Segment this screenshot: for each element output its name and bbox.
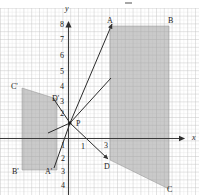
y-tick-neg-4: 4: [61, 182, 65, 190]
vertex-label-B: B: [168, 17, 173, 25]
vertex-label-C-prime: C': [11, 83, 18, 91]
y-tick-neg-1: 1: [61, 142, 65, 150]
figure-canvas: [0, 0, 199, 195]
y-axis-label: y: [65, 5, 69, 13]
vertex-label-D: D: [104, 163, 110, 171]
y-tick-neg-2: 2: [61, 155, 65, 163]
y-tick-2: 2: [60, 110, 64, 118]
x-axis-label: x: [192, 134, 196, 142]
x-tick-1: 1: [81, 143, 85, 151]
x-tick-3: 3: [104, 142, 108, 150]
point-P-marker: [68, 121, 71, 124]
y-tick-7: 7: [60, 36, 64, 44]
y-tick-5: 5: [60, 68, 64, 76]
quadrilateral-ABCD: [110, 26, 169, 189]
y-tick-6: 6: [60, 52, 64, 60]
y-tick-4: 4: [60, 83, 64, 91]
y-tick-neg-3: 3: [61, 168, 65, 176]
vertex-label-C: C: [167, 186, 172, 194]
vertex-label-B-prime: B': [12, 168, 19, 176]
point-label-P: P: [76, 120, 80, 128]
vertex-label-A: A: [107, 17, 113, 25]
y-tick-3: 3: [60, 98, 64, 106]
y-tick-8: 8: [60, 21, 64, 29]
vertex-label-D-prime: D': [52, 95, 59, 103]
coordinate-plane-figure: y x 8 7 6 5 4 3 2 1 2 3 4 1 3 A B C D A'…: [0, 0, 199, 195]
vertex-label-A-prime: A': [45, 168, 52, 176]
